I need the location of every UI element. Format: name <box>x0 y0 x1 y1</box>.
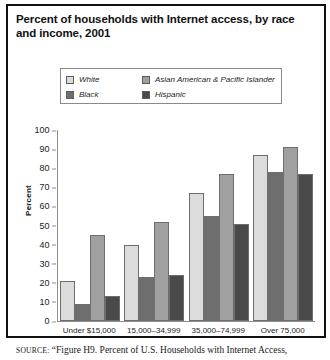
legend-label-black: Black <box>79 90 99 99</box>
x-axis-labels: Under $15,00015,000–34,99935,000–74,999O… <box>57 326 315 335</box>
bar-black-0 <box>75 304 90 321</box>
legend-label-hispanic: Hispanic <box>155 90 186 99</box>
figure-border-left <box>6 4 8 338</box>
x-axis-label: Over 75,000 <box>251 326 316 335</box>
chart-title: Percent of households with Internet acce… <box>16 12 312 40</box>
bar-white-0 <box>60 281 75 321</box>
bar-groups <box>58 130 315 321</box>
legend-swatch-hispanic <box>142 91 150 99</box>
bar-group <box>187 130 251 321</box>
bar-black-2 <box>204 216 219 321</box>
bar-black-1 <box>139 277 154 321</box>
legend-swatch-black <box>66 91 74 99</box>
legend-item-asian-american-pacific-islander: Asian American & Pacific Islander <box>142 75 275 84</box>
legend-swatch-asian-american-pacific-islander <box>142 76 150 84</box>
legend-label-white: White <box>79 75 99 84</box>
figure-border-top <box>6 4 326 6</box>
bar-asian-american-pacific-islander-1 <box>154 222 169 321</box>
y-tick-40: 40 <box>39 240 56 249</box>
bar-group <box>58 130 122 321</box>
source-text: “Figure H9. Percent of U.S. Households w… <box>52 345 287 355</box>
chart-legend: White Asian American & Pacific Islander … <box>60 68 282 104</box>
legend-label-asian-american-pacific-islander: Asian American & Pacific Islander <box>155 75 275 84</box>
y-tick-10: 10 <box>39 297 56 306</box>
y-tick-100: 100 <box>34 126 56 135</box>
bar-group <box>122 130 186 321</box>
bar-group <box>251 130 315 321</box>
y-tick-90: 90 <box>39 145 56 154</box>
x-axis-label: Under $15,000 <box>57 326 122 335</box>
legend-item-hispanic: Hispanic <box>142 90 275 99</box>
bar-hispanic-0 <box>105 296 120 321</box>
y-tick-80: 80 <box>39 164 56 173</box>
y-tick-30: 30 <box>39 259 56 268</box>
x-axis-label: 15,000–34,999 <box>122 326 187 335</box>
y-axis-title: Percent <box>24 171 33 231</box>
bar-asian-american-pacific-islander-2 <box>219 174 234 321</box>
bar-white-3 <box>253 155 268 321</box>
figure-container: Percent of households with Internet acce… <box>0 0 330 360</box>
bar-hispanic-2 <box>234 224 249 321</box>
bar-white-2 <box>189 193 204 321</box>
x-axis-label: 35,000–74,999 <box>186 326 251 335</box>
source-note: SOURCE: “Figure H9. Percent of U.S. Hous… <box>16 345 330 356</box>
bar-asian-american-pacific-islander-3 <box>283 147 298 321</box>
bar-white-1 <box>124 245 139 321</box>
y-tick-20: 20 <box>39 278 56 287</box>
y-tick-0: 0 <box>44 317 56 326</box>
y-tick-70: 70 <box>39 183 56 192</box>
bar-asian-american-pacific-islander-0 <box>90 235 105 321</box>
plot-area: 0102030405060708090100 <box>57 130 315 322</box>
legend-swatch-white <box>66 76 74 84</box>
source-prefix: SOURCE: <box>16 346 49 355</box>
legend-grid: White Asian American & Pacific Islander … <box>66 72 275 102</box>
bar-black-3 <box>268 172 283 321</box>
legend-item-white: White <box>66 75 142 84</box>
figure-border-bottom <box>6 336 326 338</box>
legend-item-black: Black <box>66 90 142 99</box>
y-tick-50: 50 <box>39 221 56 230</box>
bar-hispanic-3 <box>298 174 313 321</box>
y-tick-60: 60 <box>39 202 56 211</box>
figure-border-right <box>324 4 326 338</box>
bar-hispanic-1 <box>169 275 184 321</box>
